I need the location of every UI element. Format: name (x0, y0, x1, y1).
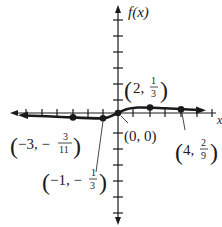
svg-text:): ) (210, 139, 218, 165)
svg-text:(: ( (124, 77, 132, 103)
svg-text:−3, −: −3, − (18, 136, 50, 152)
svg-text:(: ( (175, 139, 183, 165)
svg-text:2,: 2, (133, 80, 144, 96)
label-point-neg3: ( −3, − 3 11 ) (10, 131, 81, 159)
leader-neg1 (96, 121, 103, 172)
y-axis-down-arrow-icon (115, 217, 121, 225)
y-axis-up-arrow-icon (115, 5, 121, 13)
svg-text:(: ( (42, 169, 50, 195)
svg-text:9: 9 (201, 150, 206, 161)
svg-text:): ) (73, 133, 81, 159)
leader-origin (121, 116, 128, 123)
svg-text:): ) (160, 77, 168, 103)
x-axis-label: x (216, 113, 222, 127)
svg-text:3: 3 (151, 88, 156, 99)
point-origin (115, 110, 122, 117)
svg-text:2: 2 (201, 137, 206, 148)
label-point-neg1: ( −1, − 1 3 ) (42, 167, 107, 195)
point-2 (147, 104, 154, 111)
leader-4 (182, 113, 185, 130)
svg-text:11: 11 (59, 144, 69, 155)
x-axis-left-arrow-icon (10, 110, 18, 116)
function-graph: f(x) x ( 2, 1 3 ) (0, 0) ( 4, 2 9 ) ( −3… (0, 0, 222, 227)
point-neg1 (100, 115, 107, 122)
label-point-2: ( 2, 1 3 ) (124, 75, 168, 103)
svg-text:): ) (99, 169, 107, 195)
svg-text:1: 1 (151, 75, 156, 86)
point-neg3 (70, 114, 77, 121)
label-point-origin: (0, 0) (124, 128, 157, 145)
svg-text:3: 3 (90, 180, 95, 191)
svg-text:3: 3 (63, 131, 68, 142)
svg-text:1: 1 (91, 167, 96, 178)
y-axis-label: f(x) (128, 4, 149, 21)
svg-text:(: ( (10, 133, 18, 159)
label-point-4: ( 4, 2 9 ) (175, 137, 218, 165)
point-4 (178, 106, 185, 113)
svg-text:4,: 4, (183, 142, 194, 158)
svg-text:−1, −: −1, − (50, 172, 82, 188)
